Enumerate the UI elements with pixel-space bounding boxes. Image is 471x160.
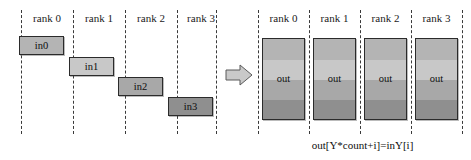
arrow-right-icon xyxy=(225,64,253,86)
right-divider-1 xyxy=(309,10,310,134)
input-block-in2: in2 xyxy=(118,77,163,96)
output-band-in2: out xyxy=(416,80,457,100)
output-column-rank2: out xyxy=(364,38,407,120)
input-block-in0: in0 xyxy=(19,36,64,55)
output-band-in1 xyxy=(263,60,304,80)
output-band-in0 xyxy=(314,39,355,60)
input-block-label: in3 xyxy=(184,101,197,112)
input-block-label: in2 xyxy=(134,81,147,92)
left-rank-label-2: rank 2 xyxy=(125,11,177,25)
output-band-in1 xyxy=(365,60,406,80)
right-rank-label-2: rank 2 xyxy=(360,11,411,25)
output-band-in0 xyxy=(365,39,406,60)
output-band-in3 xyxy=(314,100,355,120)
right-rank-label-1: rank 1 xyxy=(309,11,360,25)
right-divider-2 xyxy=(360,10,361,134)
allgather-diagram: rank 0 rank 1 rank 2 rank 3 in0 in1 in2 … xyxy=(0,0,471,160)
flow-arrow xyxy=(225,64,253,86)
output-band-in1 xyxy=(416,60,457,80)
left-rank-label-3: rank 3 xyxy=(177,11,225,25)
output-band-in0 xyxy=(416,39,457,60)
left-divider-0 xyxy=(21,10,22,134)
right-rank-label-3: rank 3 xyxy=(411,11,462,25)
output-band-in0 xyxy=(263,39,304,60)
left-rank-label-1: rank 1 xyxy=(73,11,125,25)
output-column-rank0: out xyxy=(262,38,305,120)
input-block-in1: in1 xyxy=(69,57,114,76)
output-band-in3 xyxy=(263,100,304,120)
left-divider-4 xyxy=(216,10,217,134)
input-block-label: in0 xyxy=(35,40,48,51)
output-band-in2: out xyxy=(263,80,304,100)
right-divider-0 xyxy=(258,10,259,134)
output-column-rank3: out xyxy=(415,38,458,120)
output-band-in2: out xyxy=(314,80,355,100)
input-block-in3: in3 xyxy=(168,97,213,116)
left-divider-2 xyxy=(125,10,126,134)
right-divider-3 xyxy=(411,10,412,134)
output-column-rank1: out xyxy=(313,38,356,120)
right-rank-label-0: rank 0 xyxy=(258,11,309,25)
formula-caption: out[Y*count+i]=inY[i] xyxy=(255,139,470,151)
input-block-label: in1 xyxy=(85,61,98,72)
right-divider-4 xyxy=(462,10,463,134)
output-band-in3 xyxy=(365,100,406,120)
output-band-in2: out xyxy=(365,80,406,100)
output-band-in3 xyxy=(416,100,457,120)
output-band-in1 xyxy=(314,60,355,80)
left-rank-label-0: rank 0 xyxy=(21,11,73,25)
